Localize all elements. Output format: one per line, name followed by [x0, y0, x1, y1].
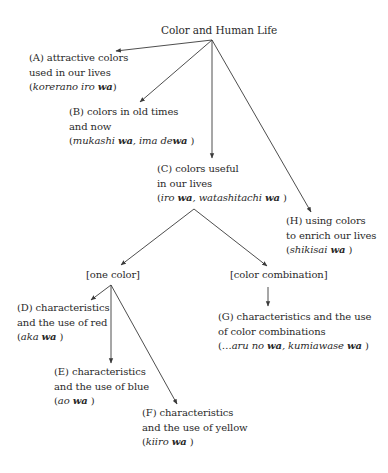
- node-g-line-1: (G) characteristics and the use: [218, 310, 371, 325]
- node-h-line-1: (H) using colors: [286, 214, 376, 229]
- node-b: (B) colors in old times and now (mukashi…: [69, 105, 194, 149]
- node-f: (F) characteristics and the use of yello…: [142, 406, 248, 450]
- edge-root-b: [140, 40, 212, 102]
- node-color-combination: [color combination]: [230, 268, 328, 283]
- node-f-japanese: (kiiro wa ): [142, 435, 248, 450]
- node-f-line-1: (F) characteristics: [142, 406, 248, 421]
- node-h-line-2: to enrich our lives: [286, 229, 376, 244]
- diagram-title: Color and Human Life: [161, 23, 277, 38]
- node-d-line-2: and the use of red: [17, 316, 109, 331]
- node-h: (H) using colors to enrich our lives (sh…: [286, 214, 376, 258]
- edge-c-one-color: [121, 209, 194, 265]
- edge-one-color-d: [91, 285, 111, 300]
- node-g: (G) characteristics and the use of color…: [218, 310, 371, 354]
- edge-c-color-combination: [194, 209, 267, 266]
- node-a-line-2: used in our lives: [29, 66, 128, 81]
- node-e: (E) characteristics and the use of blue …: [54, 365, 149, 409]
- node-a-japanese: (korerano iro wa): [29, 80, 128, 95]
- node-g-japanese: (…aru no wa, kumiawase wa ): [218, 339, 371, 354]
- node-e-japanese: (ao wa ): [54, 394, 149, 409]
- node-a: (A) attractive colors used in our lives …: [29, 51, 128, 95]
- node-c-japanese: (iro wa, watashitachi wa ): [157, 191, 287, 206]
- node-c: (C) colors useful in our lives (iro wa, …: [157, 162, 287, 206]
- node-b-line-2: and now: [69, 120, 194, 135]
- edge-root-a: [116, 40, 212, 51]
- node-d-line-1: (D) characteristics: [17, 301, 109, 316]
- node-e-line-2: and the use of blue: [54, 380, 149, 395]
- node-d: (D) characteristics and the use of red (…: [17, 301, 109, 345]
- node-h-japanese: (shikisai wa ): [286, 243, 376, 258]
- node-one-color: [one color]: [86, 268, 140, 283]
- node-a-line-1: (A) attractive colors: [29, 51, 128, 66]
- node-f-line-2: and the use of yellow: [142, 421, 248, 436]
- node-b-japanese: (mukashi wa, ima dewa ): [69, 134, 194, 149]
- node-g-line-2: of color combinations: [218, 325, 371, 340]
- node-e-line-1: (E) characteristics: [54, 365, 149, 380]
- node-d-japanese: (aka wa ): [17, 330, 109, 345]
- node-b-line-1: (B) colors in old times: [69, 105, 194, 120]
- node-c-line-2: in our lives: [157, 177, 287, 192]
- node-c-line-1: (C) colors useful: [157, 162, 287, 177]
